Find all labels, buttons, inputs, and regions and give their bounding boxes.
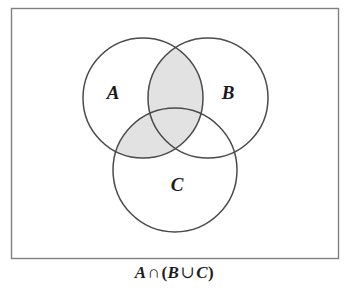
venn-diagram-canvas: A B C [0, 0, 349, 288]
figure-caption: A∩(B∪C) [0, 262, 349, 283]
venn-figure: A B C A∩(B∪C) [0, 0, 349, 288]
caption-close-paren: ) [208, 263, 214, 282]
caption-union-symbol: ∪ [179, 263, 196, 282]
set-label-a: A [106, 82, 120, 103]
caption-set-a: A [135, 263, 147, 282]
set-label-b: B [221, 82, 235, 103]
set-label-c: C [171, 174, 184, 195]
caption-intersection-symbol: ∩ [147, 263, 162, 282]
caption-set-c: C [196, 263, 208, 282]
caption-set-b: B [168, 263, 180, 282]
